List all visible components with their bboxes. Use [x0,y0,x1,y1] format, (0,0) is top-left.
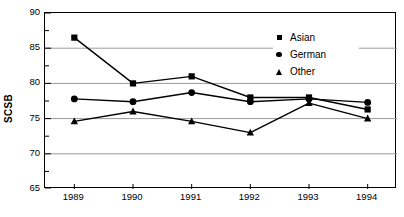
data-point-marker [129,108,136,115]
y-axis-tick-labels: 908580757065 [14,12,40,188]
circle-marker [273,52,285,58]
triangle-marker [273,69,285,75]
y-tick-label: 70 [29,148,40,158]
y-tick-label: 90 [29,7,40,17]
series-other [71,99,372,135]
line-chart: SCSB 908580757065 AsianGermanOther 19891… [0,0,404,217]
x-axis-ticks [74,184,367,189]
x-axis-tick-labels: 198919901991199219931994 [44,192,396,208]
data-point-marker [71,95,78,102]
square-marker-glyph [277,35,282,40]
x-tick-label: 1993 [297,192,318,202]
x-tick-label: 1992 [239,192,260,202]
data-point-marker [130,80,136,86]
data-point-marker [364,99,371,106]
y-tick-label: 80 [29,78,40,88]
data-point-marker [247,98,254,105]
data-point-marker [365,106,371,112]
y-tick-label: 85 [29,42,40,52]
x-tick-label: 1991 [180,192,201,202]
y-tick-label: 75 [29,113,40,123]
triangle-marker-glyph [276,69,282,75]
y-tick-label: 65 [29,183,40,193]
data-point-marker [189,73,195,79]
data-point-marker [188,89,195,96]
legend-item-german[interactable]: German [273,46,359,63]
x-tick-label: 1989 [63,192,84,202]
x-tick-label: 1990 [121,192,142,202]
x-tick-label: 1994 [356,192,377,202]
data-point-marker [130,98,137,105]
square-marker [273,35,285,40]
legend-label: Asian [285,33,315,43]
series-german [71,89,371,106]
circle-marker-glyph [276,52,282,58]
series-line [74,103,367,133]
legend-label: Other [285,67,315,77]
y-axis-minor-ticks [45,31,49,172]
legend-label: German [285,50,326,60]
plot-area: AsianGermanOther [44,12,396,188]
legend-item-other[interactable]: Other [273,63,359,80]
legend-item-asian[interactable]: Asian [273,29,359,46]
legend: AsianGermanOther [273,29,359,80]
data-point-marker [71,35,77,41]
